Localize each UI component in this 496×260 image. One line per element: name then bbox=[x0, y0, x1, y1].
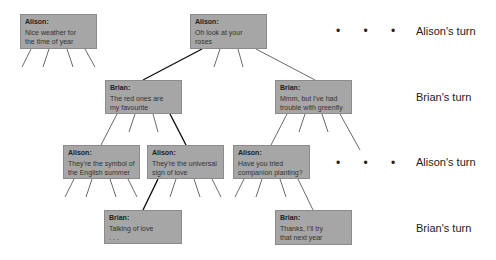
speaker-label: Brian: bbox=[280, 213, 347, 222]
dialogue-node: Alison: Have you tried companion plantin… bbox=[233, 145, 310, 179]
turn-label-brian: Brian's turn bbox=[416, 222, 471, 234]
ellipsis-top: • • • bbox=[336, 26, 405, 36]
dialogue-node: Alison: They're the universal sign of lo… bbox=[147, 145, 224, 179]
speaker-label: Alison: bbox=[238, 148, 305, 157]
dialogue-node: Alison: They're the symbol of the Englis… bbox=[63, 145, 140, 179]
dialogue-node: Brian: Thanks, I'll try that next year bbox=[275, 210, 352, 245]
speaker-label: Alison: bbox=[68, 148, 135, 157]
turn-label-brian: Brian's turn bbox=[416, 91, 471, 103]
speaker-label: Alison: bbox=[25, 17, 92, 26]
speaker-label: Brian: bbox=[109, 213, 177, 222]
speaker-label: Brian: bbox=[110, 83, 177, 92]
utterance-text: They're the universal sign of love bbox=[152, 159, 219, 177]
speaker-label: Alison: bbox=[152, 148, 219, 157]
speaker-label: Alison: bbox=[195, 17, 262, 26]
dialogue-node: Brian: Mmm, but I've had trouble with gr… bbox=[275, 80, 352, 114]
utterance-text: They're the symbol of the English summer bbox=[68, 159, 135, 177]
utterance-text: Talking of love . . . bbox=[109, 224, 177, 242]
turn-label-alison: Alison's turn bbox=[416, 156, 476, 168]
utterance-text: Oh look at your roses bbox=[195, 28, 262, 46]
utterance-text: Thanks, I'll try that next year bbox=[280, 224, 347, 242]
speaker-label: Brian: bbox=[280, 83, 347, 92]
utterance-text: Have you tried companion planting? bbox=[238, 159, 305, 177]
dialogue-node: Alison: Oh look at your roses bbox=[190, 14, 267, 49]
ellipsis-middle: • • • bbox=[336, 158, 405, 168]
dialogue-node: Brian: The red ones are my favourite bbox=[105, 80, 182, 114]
utterance-text: The red ones are my favourite bbox=[110, 94, 177, 112]
utterance-text: Mmm, but I've had trouble with greenfly bbox=[280, 94, 347, 112]
turn-label-alison: Alison's turn bbox=[416, 25, 476, 37]
utterance-text: Nice weather for the time of year bbox=[25, 28, 92, 46]
dialogue-node: Brian: Talking of love . . . bbox=[104, 210, 182, 244]
dialogue-node: Alison: Nice weather for the time of yea… bbox=[20, 14, 97, 49]
